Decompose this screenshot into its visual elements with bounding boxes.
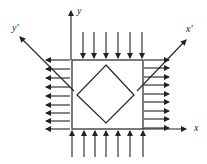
left-tensile-arrows — [46, 60, 70, 129]
y-prime-axis-label: y' — [12, 23, 19, 33]
x-axis-label: x — [194, 123, 198, 133]
y-axis-label: y — [77, 6, 81, 16]
x-prime-axis-label: x' — [186, 24, 193, 34]
top-compressive-arrows — [83, 32, 142, 58]
y-prime-axis-arrow — [20, 37, 74, 91]
stress-element-diagram — [0, 0, 207, 164]
bottom-compressive-arrows — [72, 131, 143, 157]
rotated-element-diamond — [77, 65, 134, 123]
stress-element-square — [72, 60, 143, 129]
x-prime-axis-arrow — [137, 40, 186, 91]
